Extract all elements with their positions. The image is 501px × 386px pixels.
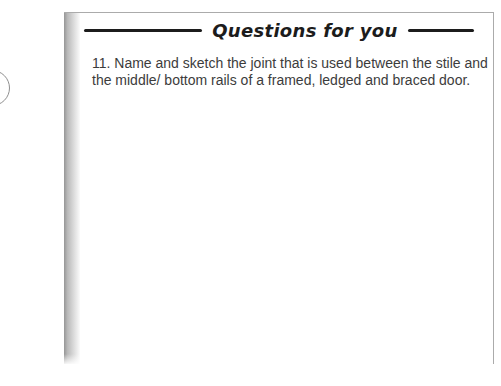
page-edge-shadow: [64, 13, 80, 364]
questions-box: Questions for you 11. Name and sketch th…: [64, 12, 494, 364]
page-curl-circle: [0, 70, 10, 106]
page: Questions for you 11. Name and sketch th…: [0, 0, 501, 386]
question-text: 11. Name and sketch the joint that is us…: [92, 55, 488, 88]
questions-title: Questions for you: [212, 20, 397, 41]
questions-header: Questions for you: [84, 16, 474, 44]
header-rule-right: [408, 29, 474, 32]
answer-space: [80, 103, 493, 364]
question-line-1: 11. Name and sketch the joint that is us…: [92, 55, 488, 72]
question-line-2: the middle/ bottom rails of a framed, le…: [92, 72, 488, 89]
header-rule-left: [84, 29, 202, 32]
